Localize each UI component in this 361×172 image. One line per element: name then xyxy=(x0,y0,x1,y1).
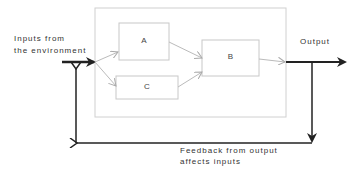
edge-b-output xyxy=(259,59,285,62)
edge-input-c xyxy=(95,62,116,86)
edge-input-a xyxy=(95,52,118,62)
box-a-label: A xyxy=(119,36,169,45)
feedback-label-line1: Feedback from output xyxy=(180,145,278,156)
edge-c-b xyxy=(178,72,202,87)
input-label-line1: Inputs from xyxy=(14,33,65,44)
feedback-label-line2: affects inputs xyxy=(180,156,241,167)
output-label: Output xyxy=(300,36,330,47)
box-c-label: C xyxy=(116,82,178,91)
input-label-line2: the environment xyxy=(14,45,86,56)
box-b-label: B xyxy=(202,52,259,61)
edge-a-b xyxy=(169,42,202,58)
